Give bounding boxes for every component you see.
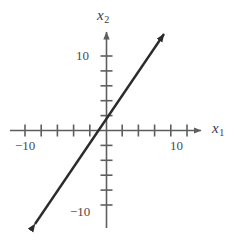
x-tick-label-neg-10: −10 <box>15 139 35 152</box>
x-axis-title-subscript: 1 <box>219 127 224 138</box>
plot-canvas <box>0 0 236 242</box>
x-axis-title: x1 <box>212 121 224 138</box>
x-tick-label-10: 10 <box>170 139 183 152</box>
coordinate-plot-figure: x1 x2 −10 10 10 −10 <box>0 0 236 242</box>
y-axis-title-text: x <box>97 7 104 23</box>
y-axis-title-subscript: 2 <box>104 14 109 25</box>
x-axis <box>10 125 201 137</box>
y-axis-title: x2 <box>97 8 109 25</box>
data-line-series <box>35 34 164 224</box>
x-axis-title-text: x <box>212 120 219 136</box>
y-tick-label-neg-10: −10 <box>70 205 90 218</box>
y-tick-label-10: 10 <box>76 49 89 62</box>
